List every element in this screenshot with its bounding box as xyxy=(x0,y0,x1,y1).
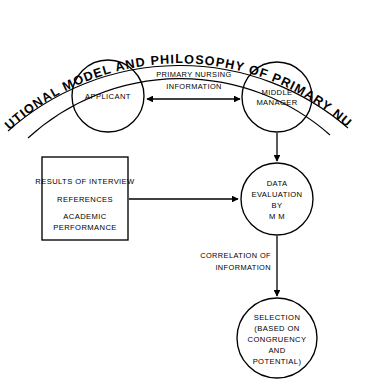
node-data-evaluation-line2: EVALUATION xyxy=(252,190,303,199)
node-data-evaluation-line1: DATA xyxy=(267,179,288,188)
edge-correlation-of-information-line2: INFORMATION xyxy=(215,263,271,272)
inputs-box-line2: REFERENCES xyxy=(57,195,113,204)
node-data-evaluation-circle xyxy=(241,163,313,235)
node-applicant-label: APPLICANT xyxy=(85,92,131,101)
node-selection-line4: AND xyxy=(268,346,285,355)
diagram-title: INSTITUTIONAL MODEL AND PHILOSOPHY OF PR… xyxy=(0,0,355,132)
node-data-evaluation-line4: M M xyxy=(269,212,285,221)
node-selection-line3: CONGRUENCY xyxy=(248,335,307,344)
edge-primary-nursing-information-line2: INFORMATION xyxy=(166,82,222,91)
node-middle-manager-label-line2: MANAGER xyxy=(256,98,297,107)
institutional-model-diagram: INSTITUTIONAL MODEL AND PHILOSOPHY OF PR… xyxy=(0,0,380,386)
node-selection-line2: (BASED ON xyxy=(254,324,299,333)
node-data-evaluation-line3: BY xyxy=(272,201,283,210)
edge-primary-nursing-information-line1: PRIMARY NURSING xyxy=(156,70,232,79)
inputs-box-line4: PERFORMANCE xyxy=(53,223,116,232)
node-middle-manager-label-line1: MIDDLE xyxy=(261,88,292,97)
edge-correlation-of-information-line1: CORRELATION OF xyxy=(200,251,271,260)
diagram-canvas: INSTITUTIONAL MODEL AND PHILOSOPHY OF PR… xyxy=(0,0,380,386)
inputs-box-line1: RESULTS OF INTERVIEW xyxy=(35,177,135,186)
node-selection-line5: POTENTIAL) xyxy=(253,357,302,366)
inputs-box-line3: ACADEMIC xyxy=(63,212,106,221)
node-selection-line1: SELECTION xyxy=(254,313,301,322)
